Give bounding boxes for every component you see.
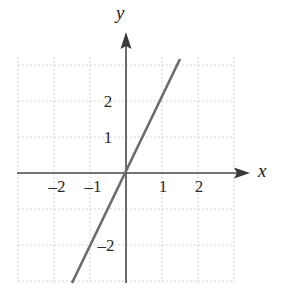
y-tick-label-2: 2 <box>98 93 118 110</box>
x-tick-label-neg2: –2 <box>40 178 74 195</box>
y-axis-label: y <box>116 3 124 22</box>
x-tick-label-neg1: –1 <box>76 178 110 195</box>
coordinate-plane-figure: y x –2 –1 1 2 2 1 –2 <box>0 0 284 297</box>
y-tick-label-neg2: –2 <box>90 237 122 254</box>
x-tick-label-2: 2 <box>188 178 210 195</box>
y-tick-label-1: 1 <box>98 129 118 146</box>
x-tick-label-1: 1 <box>152 178 174 195</box>
graph-canvas <box>0 0 284 297</box>
x-axis-label: x <box>258 161 266 180</box>
